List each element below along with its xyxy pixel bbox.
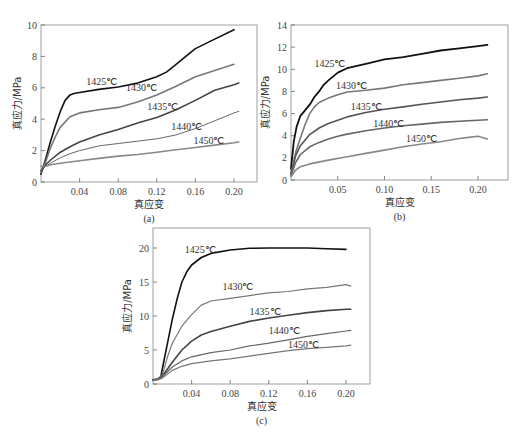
x-tick-label: 0.04 xyxy=(183,388,201,399)
chart-panel-b: 0.050.100.150.20024681012141425℃1430℃143… xyxy=(259,20,508,223)
x-tick-label: 0.16 xyxy=(299,388,317,399)
y-tick-label: 10 xyxy=(277,64,287,75)
y-tick-label: 6 xyxy=(282,108,287,119)
series-line-1435c xyxy=(291,97,487,175)
x-tick-label: 0.04 xyxy=(71,186,89,197)
y-tick-label: 8 xyxy=(282,86,287,97)
series-label: 1430℃ xyxy=(222,281,253,292)
chart-panel-c: 0.040.080.120.160.20051015201425℃1430℃14… xyxy=(121,228,370,427)
series-line-1435c xyxy=(41,83,239,171)
series-label: 1450℃ xyxy=(288,339,319,350)
y-tick-label: 8 xyxy=(32,51,37,62)
x-tick-label: 0.05 xyxy=(329,184,347,195)
figure: 0.040.080.120.160.2002468101425℃1430℃143… xyxy=(0,0,525,438)
y-tick-label: 0 xyxy=(144,379,149,390)
series-line-1430c xyxy=(41,64,234,172)
y-tick-label: 6 xyxy=(32,82,37,93)
x-tick-label: 0.08 xyxy=(109,186,127,197)
series-label: 1440℃ xyxy=(171,121,202,132)
x-tick-label: 0.20 xyxy=(337,388,355,399)
y-tick-label: 0 xyxy=(32,177,37,188)
y-tick-label: 2 xyxy=(32,145,37,156)
series-label: 1435℃ xyxy=(351,101,382,112)
x-tick-label: 0.16 xyxy=(187,186,205,197)
x-axis-title: 真应变 xyxy=(385,196,415,208)
panel-label: (b) xyxy=(394,211,406,223)
panel-label: (c) xyxy=(256,415,267,427)
series-label: 1440℃ xyxy=(373,118,404,129)
y-tick-label: 4 xyxy=(282,130,287,141)
series-label: 1430℃ xyxy=(126,82,157,93)
x-axis-title: 真应变 xyxy=(134,198,164,210)
series-label: 1430℃ xyxy=(336,80,367,91)
y-tick-label: 10 xyxy=(27,20,37,31)
x-tick-label: 0.15 xyxy=(423,184,441,195)
x-tick-label: 0.20 xyxy=(225,186,243,197)
series-label: 1435℃ xyxy=(147,101,178,112)
x-tick-label: 0.08 xyxy=(221,388,239,399)
y-tick-label: 20 xyxy=(139,243,149,254)
series-line-1450c xyxy=(153,345,351,380)
y-tick-label: 15 xyxy=(139,277,149,288)
y-axis-title: 真应力/MPa xyxy=(11,77,23,131)
series-label: 1440℃ xyxy=(269,325,300,336)
y-axis-title: 真应力/MPa xyxy=(121,279,133,333)
series-line-1435c xyxy=(153,309,351,380)
y-axis-title: 真应力/MPa xyxy=(259,76,271,130)
series-label: 1425℃ xyxy=(86,76,117,87)
y-tick-label: 12 xyxy=(277,42,287,53)
y-tick-label: 10 xyxy=(139,311,149,322)
series-label: 1450℃ xyxy=(406,133,437,144)
y-tick-label: 4 xyxy=(32,114,37,125)
series-label: 1425℃ xyxy=(314,58,345,69)
y-tick-label: 2 xyxy=(282,152,287,163)
x-axis-title: 真应变 xyxy=(247,400,277,412)
plot-frame xyxy=(291,25,508,180)
series-label: 1450℃ xyxy=(193,135,224,146)
y-tick-label: 14 xyxy=(277,20,287,31)
series-line-1440c xyxy=(153,330,351,380)
x-tick-label: 0.10 xyxy=(376,184,394,195)
panel-label: (a) xyxy=(143,213,154,225)
chart-panel-a: 0.040.080.120.160.2002468101425℃1430℃143… xyxy=(11,20,257,226)
y-tick-label: 0 xyxy=(282,175,287,186)
series-label: 1435℃ xyxy=(250,306,281,317)
x-tick-label: 0.12 xyxy=(260,388,278,399)
x-tick-label: 0.20 xyxy=(469,184,487,195)
series-label: 1425℃ xyxy=(185,244,216,255)
y-tick-label: 5 xyxy=(144,345,149,356)
x-tick-label: 0.12 xyxy=(148,186,166,197)
